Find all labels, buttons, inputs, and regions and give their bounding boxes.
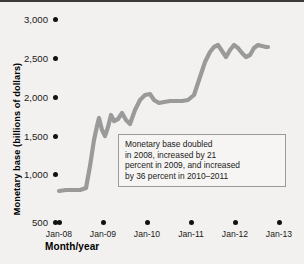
annotation-line-4: by 36 percent in 2010–2011 — [125, 171, 280, 182]
x-tick-label-jan-12: Jan-12 — [211, 229, 259, 239]
x-tick-label-jan-10: Jan-10 — [123, 229, 171, 239]
y-tick-label-2500: 2,500 — [8, 53, 48, 64]
y-tick-dot-2500 — [53, 56, 58, 61]
annotation-line-1: Monetary base doubled — [125, 139, 280, 150]
figure-top-rule — [0, 0, 304, 2]
y-tick-dot-3000 — [53, 17, 58, 22]
y-tick-dot-1500 — [53, 134, 58, 139]
y-tick-dot-2000 — [53, 95, 58, 100]
annotation-line-2: in 2008, increased by 21 — [125, 150, 280, 161]
y-tick-dot-1000 — [53, 172, 58, 177]
x-axis-title: Month/year — [45, 241, 99, 252]
annotation-line-3: percent in 2009, and increased — [125, 160, 280, 171]
y-tick-label-2000: 2,000 — [8, 92, 48, 103]
x-tick-label-jan-11: Jan-11 — [167, 229, 215, 239]
y-tick-label-1000: 1,000 — [8, 169, 48, 180]
x-tick-dot-jan-08 — [57, 220, 62, 225]
x-tick-dot-jan-12 — [233, 220, 238, 225]
x-tick-label-jan-09: Jan-09 — [79, 229, 127, 239]
chart-annotation: Monetary base doubled in 2008, increased… — [118, 134, 286, 187]
y-tick-label-3000: 3,000 — [8, 14, 48, 25]
chart-figure: Monetary base (billions of dollars) 3,00… — [0, 0, 304, 264]
y-tick-label-1500: 1,500 — [8, 131, 48, 142]
y-tick-label-500: 500 — [8, 217, 48, 228]
x-tick-dot-jan-09 — [101, 220, 106, 225]
x-tick-dot-jan-11 — [189, 220, 194, 225]
x-tick-label-jan-13: Jan-13 — [255, 229, 303, 239]
x-tick-dot-jan-13 — [277, 220, 282, 225]
x-tick-label-jan-08: Jan-08 — [35, 229, 83, 239]
x-tick-dot-jan-10 — [145, 220, 150, 225]
